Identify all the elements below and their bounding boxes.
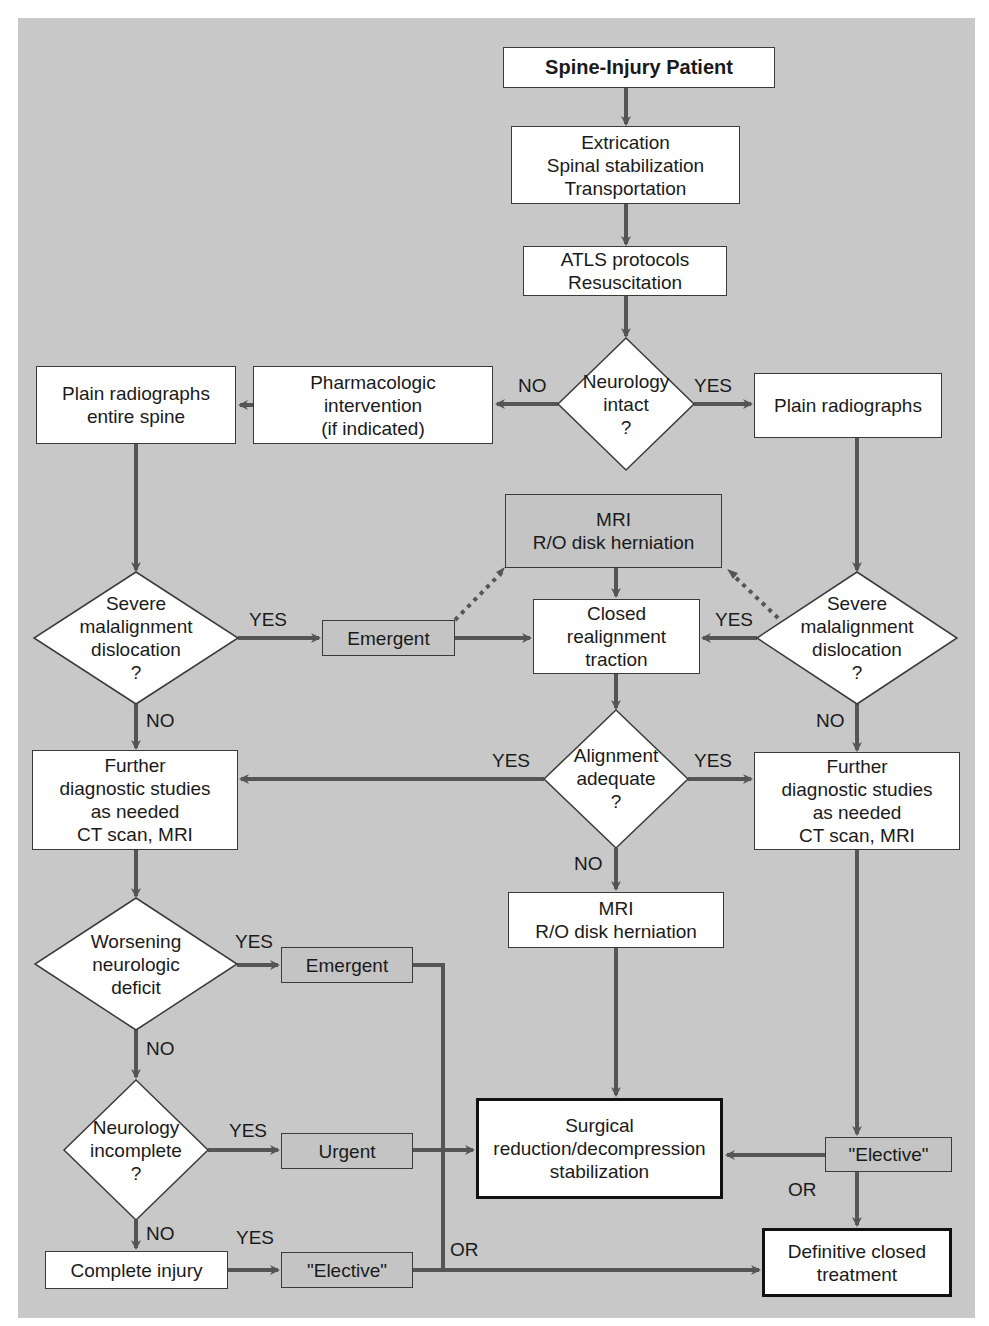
node-line: as needed [91, 800, 180, 823]
label-severe-left-yes: YES [249, 610, 287, 630]
dotted-arrowhead-left [496, 567, 505, 577]
node-line: Spinal stabilization [547, 154, 704, 177]
node-emergent-mid: Emergent [322, 620, 455, 656]
node-line: treatment [817, 1263, 897, 1286]
node-line: intervention [324, 394, 422, 417]
node-mri-lower: MRI R/O disk herniation [508, 892, 724, 948]
node-plain-radiographs-entire-spine: Plain radiographs entire spine [36, 366, 236, 444]
node-plain-radiographs: Plain radiographs [754, 373, 942, 438]
label-align-yes-left: YES [492, 751, 530, 771]
node-mri-top: MRI R/O disk herniation [505, 494, 722, 568]
node-line: CT scan, MRI [799, 824, 915, 847]
node-line: Resuscitation [568, 271, 682, 294]
node-line: MRI [596, 508, 631, 531]
diamond-neurology-intact [558, 338, 694, 470]
diamond-alignment-adequate [544, 710, 688, 848]
label-or-bus: OR [450, 1240, 479, 1260]
node-further-right: Further diagnostic studies as needed CT … [754, 752, 960, 850]
node-further-left: Further diagnostic studies as needed CT … [32, 750, 238, 850]
node-line: Definitive closed [788, 1240, 926, 1263]
node-line: Further [826, 755, 887, 778]
label-severe-right-no: NO [816, 711, 845, 731]
node-line: R/O disk herniation [535, 920, 697, 943]
label-neuro-yes: YES [694, 376, 732, 396]
edge-emergent-mri-dotted [455, 572, 502, 620]
node-extrication: Extrication Spinal stabilization Transpo… [511, 126, 740, 204]
node-line: R/O disk herniation [533, 531, 695, 554]
node-line: as needed [813, 801, 902, 824]
node-line: entire spine [87, 405, 185, 428]
node-line: Spine-Injury Patient [545, 56, 733, 79]
node-line: Plain radiographs [774, 394, 922, 417]
node-line: Pharmacologic [310, 371, 436, 394]
node-pharmacologic: Pharmacologic intervention (if indicated… [253, 366, 493, 444]
label-neuro-no: NO [518, 376, 547, 396]
node-line: realignment [567, 625, 666, 648]
node-surgical: Surgical reduction/decompression stabili… [476, 1098, 723, 1199]
label-severe-right-yes: YES [715, 610, 753, 630]
label-incomplete-yes: YES [229, 1121, 267, 1141]
node-line: Complete injury [71, 1259, 203, 1282]
diamond-worsening [35, 898, 237, 1030]
diamond-severe-right [757, 572, 957, 704]
label-or-right: OR [788, 1180, 817, 1200]
label-complete-yes: YES [236, 1228, 274, 1248]
node-line: (if indicated) [321, 417, 425, 440]
node-line: Extrication [581, 131, 670, 154]
node-line: Emergent [347, 627, 429, 650]
node-urgent: Urgent [281, 1133, 413, 1169]
node-closed-realignment: Closed realignment traction [533, 599, 700, 674]
node-line: Emergent [306, 954, 388, 977]
node-line: Urgent [318, 1140, 375, 1163]
node-line: "Elective" [848, 1143, 928, 1166]
node-line: diagnostic studies [59, 777, 210, 800]
node-line: reduction/decompression [493, 1137, 705, 1160]
node-elective-right: "Elective" [825, 1137, 952, 1172]
node-line: traction [585, 648, 647, 671]
node-line: Surgical [565, 1114, 634, 1137]
node-line: Further [104, 754, 165, 777]
node-atls: ATLS protocols Resuscitation [523, 246, 727, 296]
node-definitive: Definitive closed treatment [762, 1228, 952, 1297]
label-worsening-yes: YES [235, 932, 273, 952]
node-line: Closed [587, 602, 646, 625]
label-align-no: NO [574, 854, 603, 874]
node-line: diagnostic studies [781, 778, 932, 801]
diamond-severe-left [34, 572, 238, 704]
node-elective-lower: "Elective" [281, 1252, 413, 1288]
node-spine-injury-patient: Spine-Injury Patient [503, 47, 775, 88]
node-line: stabilization [550, 1160, 649, 1183]
dotted-arrowhead-right [727, 569, 738, 579]
node-emergent-lower: Emergent [281, 947, 413, 983]
label-worsening-no: NO [146, 1039, 175, 1059]
node-line: Plain radiographs [62, 382, 210, 405]
label-severe-left-no: NO [146, 711, 175, 731]
label-align-yes-right: YES [694, 751, 732, 771]
label-incomplete-no: NO [146, 1224, 175, 1244]
diamond-neurology-incomplete [64, 1080, 208, 1220]
node-line: "Elective" [307, 1259, 387, 1282]
node-line: MRI [599, 897, 634, 920]
node-complete-injury: Complete injury [45, 1251, 228, 1289]
node-line: ATLS protocols [561, 248, 689, 271]
node-line: CT scan, MRI [77, 823, 193, 846]
node-line: Transportation [565, 177, 687, 200]
edge-emergent-bus [413, 965, 443, 1270]
